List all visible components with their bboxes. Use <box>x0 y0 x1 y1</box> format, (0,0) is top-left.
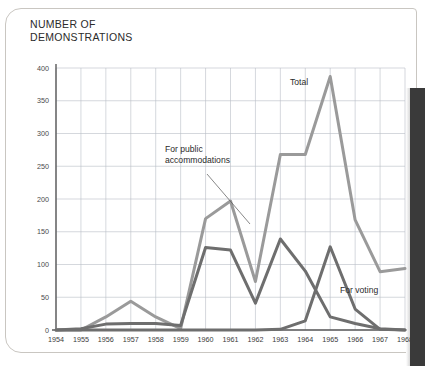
x-tick-label-1958: 1958 <box>148 335 164 344</box>
x-tick-label-1955: 1955 <box>73 335 89 344</box>
y-tick-label-350: 350 <box>37 96 49 105</box>
x-tick-label-1960: 1960 <box>198 335 214 344</box>
y-tick-label-300: 300 <box>37 129 49 138</box>
x-tick-label-1957: 1957 <box>123 335 139 344</box>
y-tick-label-400: 400 <box>37 64 49 73</box>
x-tick-label-1966: 1966 <box>347 335 363 344</box>
annotation-total-line-0: Total <box>290 77 308 87</box>
annotation-public: For publicaccommodations <box>165 144 230 165</box>
annotation-voting-line-0: For voting <box>340 285 378 295</box>
chart-plot-area: 050100150200250300350400 195419551956195… <box>0 0 425 366</box>
y-tick-label-0: 0 <box>45 326 49 335</box>
y-axis-tick-labels: 050100150200250300350400 <box>37 64 49 335</box>
x-tick-label-1956: 1956 <box>98 335 114 344</box>
y-tick-label-200: 200 <box>37 195 49 204</box>
x-tick-label-1968: 1968 <box>397 335 413 344</box>
annotation-public-line-1: accommodations <box>165 155 230 165</box>
x-tick-label-1967: 1967 <box>372 335 388 344</box>
y-tick-label-50: 50 <box>41 293 49 302</box>
annotation-total: Total <box>290 77 308 87</box>
annotation-public-line-0: For public <box>165 144 203 154</box>
y-tick-label-150: 150 <box>37 227 49 236</box>
x-tick-label-1965: 1965 <box>322 335 338 344</box>
x-tick-label-1963: 1963 <box>272 335 288 344</box>
x-tick-label-1959: 1959 <box>173 335 189 344</box>
x-tick-label-1961: 1961 <box>223 335 239 344</box>
x-tick-label-1962: 1962 <box>247 335 263 344</box>
line-chart-svg: 050100150200250300350400 195419551956195… <box>0 0 425 366</box>
y-tick-label-250: 250 <box>37 162 49 171</box>
annotation-voting: For voting <box>340 285 378 295</box>
x-tick-label-1954: 1954 <box>48 335 64 344</box>
x-tick-label-1964: 1964 <box>297 335 313 344</box>
page-background: NUMBER OF DEMONSTRATIONS 050100150200250… <box>0 0 425 366</box>
x-axis-tick-labels: 1954195519561957195819591960196119621963… <box>48 335 413 344</box>
y-tick-label-100: 100 <box>37 260 49 269</box>
